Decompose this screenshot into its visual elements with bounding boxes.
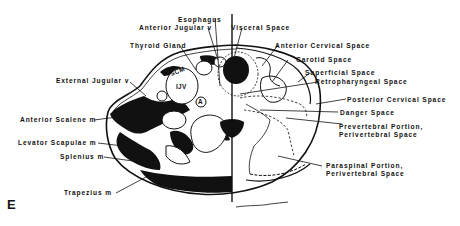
label-danger-space: Danger Space bbox=[340, 109, 395, 117]
label-anterior-scalene: Anterior Scalene m bbox=[20, 116, 96, 123]
neck-cross-section-diagram: SCM IJV A Esophagus Anterior Jugular v T… bbox=[0, 0, 460, 226]
panel-letter: E bbox=[7, 197, 16, 212]
label-superficial-space: Superficial Space bbox=[305, 69, 375, 77]
label-prevertebral-2: Perivertebral Space bbox=[339, 131, 418, 139]
label-external-jugular: External Jugular v bbox=[56, 77, 129, 85]
label-trapezius: Trapezius m bbox=[64, 189, 112, 197]
label-carotid-space: Carotid Space bbox=[296, 56, 352, 64]
label-paraspinal-1: Paraspinal Portion, bbox=[326, 162, 403, 170]
label-anterior-jugular: Anterior Jugular v bbox=[139, 24, 212, 32]
label-ijv: IJV bbox=[176, 83, 187, 90]
label-paraspinal-2: Perivertebral Space bbox=[326, 170, 405, 178]
artist-signature bbox=[236, 202, 288, 207]
label-retropharyngeal: Retropharyngeal Space bbox=[315, 78, 408, 86]
label-splenius: Splenius m bbox=[60, 153, 104, 161]
label-posterior-cervical: Posterior Cervical Space bbox=[347, 96, 446, 104]
label-thyroid-gland: Thyroid Gland bbox=[130, 42, 186, 50]
label-levator-scapulae: Levator Scapulae m bbox=[18, 139, 97, 147]
visceral-space bbox=[218, 52, 258, 96]
label-visceral-space: Visceral Space bbox=[231, 24, 290, 32]
label-artery: A bbox=[198, 98, 203, 105]
label-prevertebral-1: Prevertebral Portion, bbox=[339, 123, 423, 131]
label-anterior-cervical: Anterior Cervical Space bbox=[275, 42, 370, 50]
label-esophagus: Esophagus bbox=[178, 16, 222, 24]
